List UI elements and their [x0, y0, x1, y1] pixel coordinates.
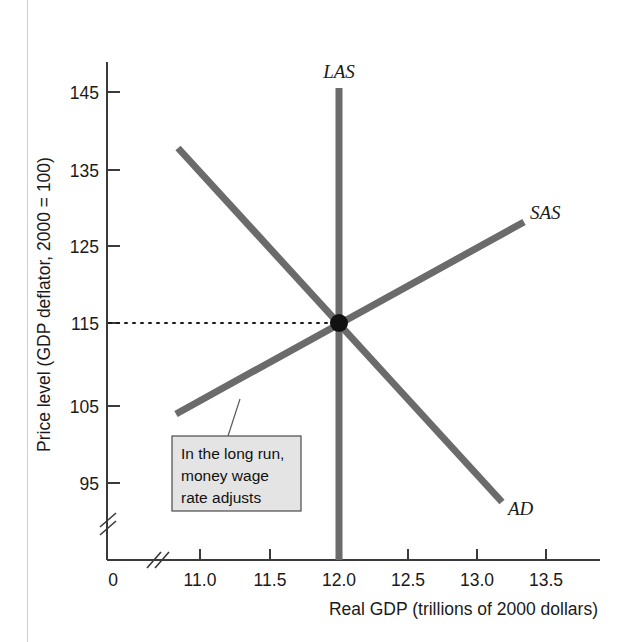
x-tick-label-11-0: 11.0: [184, 570, 217, 590]
chart-canvas: 145 135 125 115 105 95 11.0 11.5 12.0 12…: [0, 0, 642, 642]
sas-curve: [176, 222, 524, 414]
y-axis-title: Price level (GDP deflator, 2000 = 100): [34, 157, 54, 452]
callout-line-2: money wage: [181, 467, 269, 484]
callout-leader-line: [228, 399, 240, 436]
y-tick-label-115: 115: [71, 314, 99, 334]
y-tick-label-145: 145: [70, 83, 99, 103]
x-tick-labels-group: 11.0 11.5 12.0 12.5 13.0 13.5 0: [108, 570, 563, 590]
sas-curve-label: SAS: [530, 202, 561, 223]
y-tick-label-95: 95: [80, 474, 99, 494]
x-tick-label-13-5: 13.5: [529, 570, 563, 590]
ad-curve-label: AD: [506, 498, 534, 519]
y-tick-label-105: 105: [70, 397, 99, 417]
las-curve-label: LAS: [322, 61, 355, 82]
x-tick-label-12-0: 12.0: [322, 570, 356, 590]
y-ticks-group: [107, 92, 120, 483]
equilibrium-point: [330, 314, 348, 332]
y-tick-label-125: 125: [70, 237, 99, 257]
x-ticks-group: [200, 549, 546, 560]
y-tick-label-135: 135: [70, 161, 99, 181]
x-axis-title: Real GDP (trillions of 2000 dollars): [329, 599, 598, 619]
x-tick-label-13-0: 13.0: [460, 570, 494, 590]
callout-line-3: rate adjusts: [181, 489, 261, 506]
ad-as-figure: 145 135 125 115 105 95 11.0 11.5 12.0 12…: [0, 0, 642, 642]
callout-line-1: In the long run,: [181, 445, 284, 462]
x-tick-label-11-5: 11.5: [254, 570, 287, 590]
x-axis-origin-label: 0: [108, 570, 118, 590]
y-tick-labels-group: 145 135 125 115 105 95: [70, 83, 99, 494]
x-tick-label-12-5: 12.5: [391, 570, 425, 590]
